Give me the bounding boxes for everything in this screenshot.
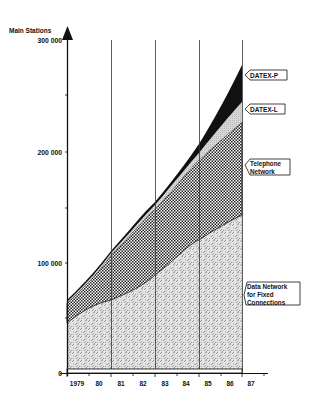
y-label-0: 0 [58, 370, 62, 377]
y-label-300000: 300 000 [37, 37, 62, 44]
svg-text:Network: Network [250, 168, 275, 175]
svg-text:81: 81 [117, 380, 125, 387]
svg-text:DATEX-P: DATEX-P [250, 72, 279, 79]
stacked-area-chart: Main Stations 300 000 200 000 100 000 0 … [0, 0, 318, 407]
svg-text:80: 80 [95, 380, 103, 387]
svg-text:1979: 1979 [70, 380, 85, 387]
svg-text:87: 87 [247, 380, 255, 387]
svg-text:DATEX-L: DATEX-L [250, 106, 278, 113]
svg-text:Telephone: Telephone [250, 160, 282, 168]
y-ticks [65, 95, 67, 318]
callout-telephone-network: Telephone Network [245, 159, 290, 175]
y-label-200000: 200 000 [37, 149, 62, 156]
y-axis-arrow-icon [62, 26, 73, 40]
svg-text:83: 83 [161, 380, 169, 387]
callout-data-network: Data Network for Fixed Connections [244, 282, 300, 306]
svg-text:Data Network: Data Network [247, 283, 288, 290]
y-label-100000: 100 000 [37, 260, 62, 267]
x-labels: 1979 80 81 82 83 84 85 86 87 [70, 380, 255, 387]
callout-datex-p: DATEX-P [245, 70, 287, 80]
svg-text:86: 86 [226, 380, 234, 387]
svg-text:82: 82 [139, 380, 147, 387]
svg-text:Connections: Connections [247, 299, 286, 306]
svg-text:85: 85 [204, 380, 212, 387]
baseline-band [67, 369, 242, 373]
svg-text:84: 84 [182, 380, 190, 387]
callout-datex-l: DATEX-L [245, 104, 285, 114]
svg-text:for Fixed: for Fixed [247, 291, 274, 298]
y-axis-title: Main Stations [9, 27, 52, 34]
